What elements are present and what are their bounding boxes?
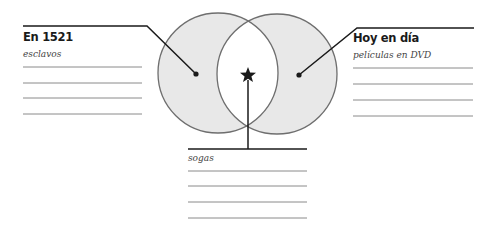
right-write-lines <box>353 68 473 116</box>
left-write-lines <box>23 67 142 114</box>
venn-diagram <box>0 0 496 234</box>
left-dot-icon <box>193 71 198 76</box>
right-title: Hoy en día <box>353 31 419 45</box>
left-title: En 1521 <box>23 30 73 44</box>
right-example: películas en DVD <box>353 50 431 60</box>
right-dot-icon <box>296 72 301 77</box>
left-example: esclavos <box>23 49 61 59</box>
overlap-example: sogas <box>188 153 214 163</box>
overlap-write-lines <box>188 171 307 218</box>
